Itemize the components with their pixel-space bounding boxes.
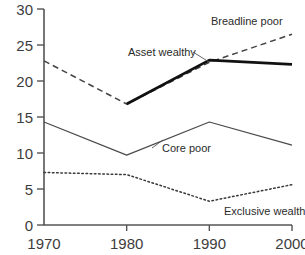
series-line-breadline-poor [44,34,292,104]
x-tick-label: 1970 [27,235,60,252]
data-series-group [44,34,292,201]
x-axis-tick-labels: 1970198019902000 [27,235,305,252]
chart-container: 051015202530 1970198019902000 Breadline … [0,0,305,255]
y-tick-label: 0 [25,217,33,234]
y-tick-label: 25 [16,37,33,54]
series-line-asset-wealthy [127,60,292,104]
y-axis-tick-labels: 051015202530 [16,1,33,234]
x-axis-ticks [127,225,292,231]
annotation-exclusive-wealthy: Exclusive wealthy [224,205,305,217]
y-tick-label: 30 [16,1,33,18]
x-tick-label: 1980 [110,235,143,252]
annotation-breadline-poor: Breadline poor [211,15,283,27]
y-axis-ticks [37,9,44,225]
y-tick-label: 15 [16,109,33,126]
x-tick-label: 2000 [275,235,305,252]
y-tick-label: 10 [16,145,33,162]
line-chart: 051015202530 1970198019902000 Breadline … [0,0,305,255]
x-tick-label: 1990 [193,235,226,252]
series-line-exclusive-wealthy [44,172,292,201]
annotation-asset-wealthy: Asset wealthy [128,46,196,58]
y-tick-label: 5 [25,181,33,198]
y-tick-label: 20 [16,73,33,90]
annotation-core-poor: Core poor [162,142,211,154]
axes-group [37,9,292,231]
